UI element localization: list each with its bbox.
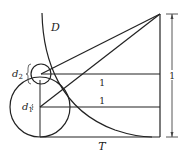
dimension-label: 1 [169,71,175,81]
lower-segment-label: 1 [99,96,105,106]
arrow-bottom-icon [171,132,174,137]
baseline-label-t: T [98,140,107,153]
curve-label-d: D [50,21,60,34]
geometry-diagram: 1 D d2 d1 1 1 T [0,0,181,154]
upper-segment-label: 1 [99,78,105,88]
d2-label: d2 [12,68,23,81]
arrow-top-icon [171,14,174,19]
d1-label: d1 [22,101,33,114]
d2-bracket [26,64,31,84]
